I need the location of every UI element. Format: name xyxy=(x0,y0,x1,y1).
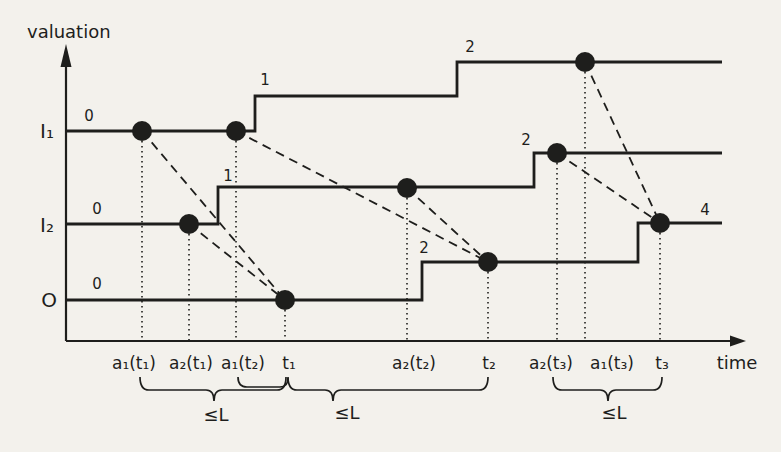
signal-O-value-0: 0 xyxy=(92,275,102,293)
signal-label-O: O xyxy=(41,288,57,312)
event-dot-a2t1 xyxy=(179,214,199,234)
event-dot-t2 xyxy=(478,252,498,272)
event-dot-a1t2 xyxy=(226,121,246,141)
interval-brace-1 xyxy=(140,377,286,401)
event-label-a2t3: a₂(t₃) xyxy=(529,353,573,373)
interval-brace-3 xyxy=(553,377,662,401)
interval-brace-label-3: ≤L xyxy=(601,402,626,423)
signal-O-value-4: 4 xyxy=(700,201,710,219)
event-dot-t1 xyxy=(275,290,295,310)
y-axis-arrow-icon xyxy=(61,44,72,67)
interval-brace-label-2: ≤L xyxy=(334,402,359,423)
event-label-t2: t₂ xyxy=(482,353,495,373)
event-dot-a2t3 xyxy=(547,143,567,163)
signal-I1-value-1: 1 xyxy=(260,71,270,89)
dependency-dash-a1t3-t3 xyxy=(585,62,660,223)
dependency-dash-a2t1-t1 xyxy=(189,224,285,300)
event-dot-a1t1 xyxy=(132,121,152,141)
event-label-a2t1: a₂(t₁) xyxy=(169,353,213,373)
event-label-a1t2: a₁(t₂) xyxy=(221,353,265,373)
event-dot-a2t2 xyxy=(397,178,417,198)
signal-O-value-2: 2 xyxy=(419,239,429,257)
signal-trace-I1 xyxy=(66,62,722,131)
interval-brace-lead-2 xyxy=(238,377,288,387)
timing-diagram-figure: I₁012I₂012O024a₁(t₁)a₂(t₁)a₁(t₂)t₁a₂(t₂)… xyxy=(0,0,781,452)
signal-trace-O xyxy=(66,223,722,300)
x-axis-arrow-icon xyxy=(730,336,746,347)
event-dot-a1t3 xyxy=(575,52,595,72)
signal-I2-value-2: 2 xyxy=(521,131,531,149)
dependency-dash-a1t1-t1 xyxy=(142,131,285,300)
valuation-vs-time-diagram: I₁012I₂012O024a₁(t₁)a₂(t₁)a₁(t₂)t₁a₂(t₂)… xyxy=(0,0,781,452)
event-label-t3: t₃ xyxy=(655,353,668,373)
signal-I2-value-1: 1 xyxy=(223,167,233,185)
event-label-a2t2: a₂(t₂) xyxy=(392,353,436,373)
interval-brace-label-1: ≤L xyxy=(203,404,228,425)
interval-brace-2 xyxy=(288,377,488,401)
event-label-t1: t₁ xyxy=(282,353,295,373)
y-axis-label: valuation xyxy=(27,21,111,42)
event-label-a1t3: a₁(t₃) xyxy=(590,353,634,373)
signal-I1-value-0: 0 xyxy=(84,107,94,125)
event-label-a1t1: a₁(t₁) xyxy=(112,353,156,373)
event-dot-t3 xyxy=(650,213,670,233)
dependency-dash-a1t2-t2 xyxy=(236,131,488,262)
signal-I2-value-0: 0 xyxy=(92,200,102,218)
signal-label-I2: I₂ xyxy=(40,213,54,237)
signal-label-I1: I₁ xyxy=(40,119,54,143)
x-axis-label: time xyxy=(717,352,758,373)
signal-trace-I2 xyxy=(66,153,722,224)
signal-I1-value-2: 2 xyxy=(465,38,475,56)
